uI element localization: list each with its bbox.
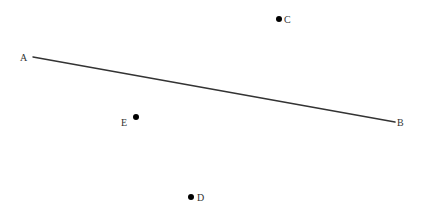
- diagram-canvas: A B C E D: [0, 0, 427, 221]
- label-e: E: [121, 117, 127, 128]
- point-c: [276, 16, 282, 22]
- label-a: A: [20, 52, 28, 63]
- segment-ab: [33, 57, 395, 122]
- label-c: C: [284, 14, 291, 25]
- label-b: B: [397, 117, 404, 128]
- point-e: [133, 114, 139, 120]
- label-d: D: [197, 192, 204, 203]
- point-d: [188, 194, 194, 200]
